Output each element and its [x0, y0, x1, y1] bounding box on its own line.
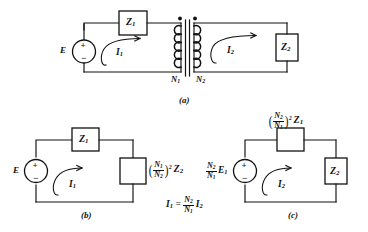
panel-c-current-arrow-i2: [262, 165, 291, 195]
panel-a-source-label: E: [60, 46, 66, 55]
right-paren: ): [164, 165, 168, 175]
panel-b-load-impedance-expression: (N1N2)2Z2: [148, 161, 183, 179]
panel-b-caption: (b): [81, 211, 92, 220]
panel-a-current-label-i2: I2: [227, 46, 234, 56]
right-paren: ): [284, 116, 288, 126]
transformer-figure: E + − Z1 Z2 I1 I2 N1 N2 (a) E + − Z1 I1 …: [0, 0, 368, 232]
panel-a-source-minus-sign: −: [81, 54, 86, 63]
panel-a-polarity-dots: [178, 17, 197, 21]
source-turns-ratio-fraction: N2N1: [206, 162, 217, 180]
equation-lhs: I1: [166, 199, 173, 209]
panel-a-primary-coil: [174, 26, 181, 68]
panel-c-top-z-symbol: Z1: [294, 114, 304, 125]
turns-ratio-equation: I1=N2N1I2: [166, 196, 203, 214]
panel-b-source-plus-sign: +: [33, 161, 38, 170]
panel-a-secondary-coil: [194, 26, 201, 68]
panel-a-z2-label: Z2: [281, 42, 291, 53]
equation-equals-sign: =: [175, 199, 180, 209]
panel-c-source-minus-sign: −: [242, 174, 247, 183]
panel-c-current-label-i2: I2: [278, 180, 285, 190]
panel-b-load-z-symbol: Z2: [174, 163, 184, 174]
panel-a-z1-label: Z1: [126, 17, 136, 28]
panel-b-current-arrow-i1: [53, 165, 82, 195]
panel-c-source-e-symbol: E1: [218, 165, 228, 175]
top-turns-ratio-fraction: N2N1: [273, 112, 284, 130]
panel-c-source-expression: N2N1E1: [206, 162, 228, 180]
panel-b-z1-label: Z1: [79, 134, 89, 145]
panel-a-winding-label-n2: N2: [196, 75, 205, 85]
left-paren: (: [269, 116, 273, 126]
panel-a-source-plus-sign: +: [81, 41, 86, 50]
panel-c-top-impedance-expression: (N2N1)2Z1: [268, 112, 303, 130]
panel-c-caption: (c): [288, 211, 298, 220]
turns-ratio-fraction: N1N2: [153, 161, 164, 179]
panel-a-current-label-i1: I1: [116, 48, 123, 58]
panel-b-current-label-i1: I1: [69, 180, 76, 190]
panel-c-source-plus-sign: +: [242, 161, 247, 170]
panel-a-winding-label-n1: N1: [171, 75, 180, 85]
panel-a-caption: (a): [179, 96, 190, 105]
equation-turns-ratio-fraction: N2N1: [183, 196, 194, 214]
equation-rhs: I2: [196, 199, 203, 209]
panel-c-z2-label: Z2: [330, 166, 340, 177]
left-paren: (: [149, 165, 153, 175]
panel-b-source-minus-sign: −: [33, 174, 38, 183]
panel-a-wiring: [73, 11, 299, 76]
panel-b-source-label: E: [13, 166, 19, 175]
